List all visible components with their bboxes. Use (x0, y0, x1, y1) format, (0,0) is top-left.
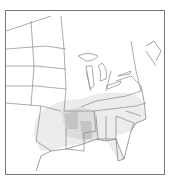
range-map (5, 10, 165, 175)
map-svg (6, 11, 165, 175)
